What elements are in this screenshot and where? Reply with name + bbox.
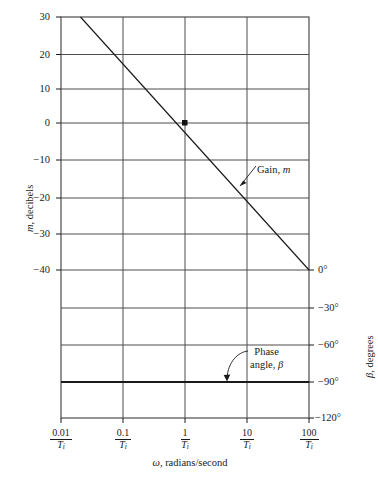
- y2tick-label-neg60deg: −60°: [318, 340, 358, 351]
- x-axis-title-text: , radians/second: [160, 457, 228, 468]
- x-axis-title: ω, radians/second: [100, 457, 280, 468]
- y2-axis-title: β, degrees: [364, 335, 375, 378]
- xtick-label-0p01-over-Ti: 0.01 Ti: [38, 428, 84, 450]
- y-axis-title: m, decibels: [24, 185, 35, 232]
- gain-annotation-prefix: Gain,: [257, 164, 283, 175]
- gain-annotation-symbol: m: [283, 164, 291, 175]
- xtick-denominator: Ti: [300, 440, 319, 451]
- left-axis-ticks: [56, 17, 61, 270]
- y2-axis-title-symbol: β: [364, 373, 375, 378]
- right-axis-ticks: [309, 270, 314, 418]
- ytick-label-0: 0: [16, 118, 50, 129]
- bottom-axis-ticks: [61, 418, 309, 423]
- ytick-label-30: 30: [16, 12, 50, 23]
- y2-axis-title-text: , degrees: [364, 335, 375, 372]
- phase-annotation-line2: angle, β: [250, 358, 283, 371]
- xtick-denominator: Ti: [181, 440, 190, 451]
- xtick-label-1-over-Ti: 1 Ti: [162, 428, 208, 450]
- y2tick-label-neg30deg: −30°: [318, 303, 358, 314]
- phase-annotation-symbol: β: [278, 359, 283, 370]
- ytick-label-neg40: −40: [16, 265, 50, 276]
- gain-annotation-text: Gain, m: [257, 163, 290, 176]
- bode-plot-figure: 30 20 10 0 −10 −20 −30 −40 0° −30° −60° …: [0, 0, 378, 484]
- y-axis-title-text: , decibels: [24, 185, 35, 225]
- y-axis-title-symbol: m: [24, 224, 35, 232]
- phase-annotation-text: Phase angle, β: [250, 345, 283, 371]
- xtick-label-0p1-over-Ti: 0.1 Ti: [100, 428, 146, 450]
- xtick-label-10-over-Ti: 10 Ti: [224, 428, 270, 450]
- phase-annotation-prefix: angle,: [250, 359, 278, 370]
- x-axis-title-symbol: ω: [152, 457, 159, 468]
- xtick-label-100-over-Ti: 100 Ti: [286, 428, 332, 450]
- xtick-denominator: Ti: [240, 440, 254, 451]
- xtick-denominator: Ti: [50, 440, 72, 451]
- ytick-label-neg10: −10: [16, 155, 50, 166]
- gain-crossover-marker: [182, 120, 188, 126]
- y2tick-label-neg90deg: −90°: [318, 377, 358, 388]
- phase-annotation-line1: Phase: [250, 345, 283, 358]
- ytick-label-10: 10: [16, 84, 50, 95]
- xtick-denominator: Ti: [115, 440, 132, 451]
- y2tick-label-0deg: 0°: [318, 265, 358, 276]
- y2tick-label-neg120deg: −120°: [315, 413, 355, 424]
- ytick-label-20: 20: [16, 50, 50, 61]
